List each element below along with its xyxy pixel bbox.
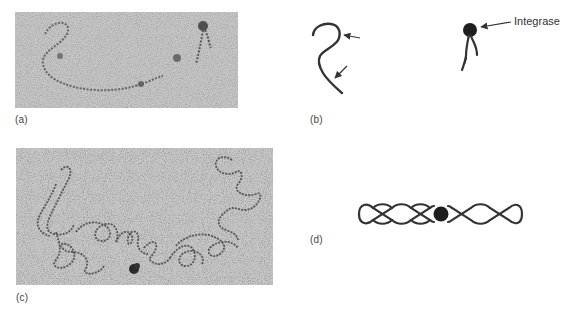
panel-label-d: (d) xyxy=(310,234,323,245)
panel-d-drawing xyxy=(0,0,580,313)
integrase-dot-icon xyxy=(434,207,449,222)
